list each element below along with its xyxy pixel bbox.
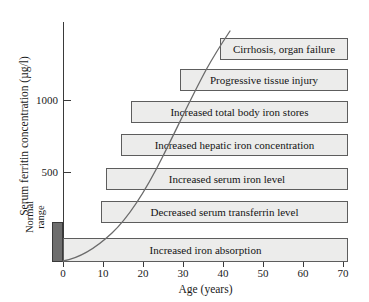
- table-row: Increased total body iron stores: [131, 101, 348, 123]
- x-tick-label-10: 10: [88, 267, 118, 280]
- x-tick-label-60: 60: [288, 267, 318, 280]
- bar-label-hepatic-iron-concentration: Increased hepatic iron concentration: [155, 139, 315, 151]
- bar-label-cirrhosis: Cirrhosis, organ failure: [233, 43, 335, 55]
- x-axis-title: Age (years): [63, 283, 348, 295]
- x-tick-label-30: 30: [168, 267, 198, 280]
- bar-label-iron-absorption: Increased iron absorption: [150, 244, 262, 256]
- x-tick-label-50: 50: [248, 267, 278, 280]
- table-row: Increased hepatic iron concentration: [121, 134, 348, 156]
- bar-label-serum-iron-level: Increased serum iron level: [169, 173, 285, 185]
- normal-range-label-line1: Normal: [24, 181, 35, 253]
- y-tick-1000: [64, 100, 71, 101]
- x-tick-label-0: 0: [48, 267, 78, 280]
- x-tick-label-20: 20: [128, 267, 158, 280]
- normal-range-block: [52, 222, 63, 262]
- normal-range-label-line2: range: [35, 181, 46, 253]
- table-row: Decreased serum transferrin level: [101, 201, 348, 223]
- table-row: Increased iron absorption: [63, 238, 348, 262]
- bar-label-serum-transferrin-level: Decreased serum transferrin level: [150, 206, 298, 218]
- bar-label-total-body-iron-stores: Increased total body iron stores: [170, 106, 308, 118]
- x-tick-label-70: 70: [328, 267, 358, 280]
- table-row: Increased serum iron level: [106, 168, 348, 190]
- x-tick-label-40: 40: [208, 267, 238, 280]
- table-row: Cirrhosis, organ failure: [220, 38, 348, 60]
- y-tick-500: [64, 172, 71, 173]
- table-row: Progressive tissue injury: [180, 69, 348, 91]
- y-axis-line: [63, 22, 64, 262]
- bar-label-progressive-tissue-injury: Progressive tissue injury: [210, 74, 318, 86]
- ferritin-progression-chart: 1000 500 0 10 20 30 40 50 60 70 Serum fe…: [0, 0, 369, 302]
- plot-area: 1000 500 0 10 20 30 40 50 60 70 Serum fe…: [0, 0, 369, 302]
- normal-range-label: Normal range: [24, 181, 46, 253]
